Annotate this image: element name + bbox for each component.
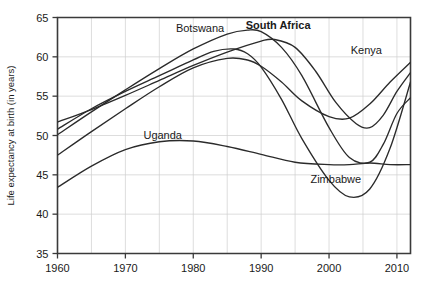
series-label-botswana: Botswana [176,22,225,34]
x-tick-label: 1970 [113,262,137,274]
x-tick-label: 1980 [181,262,205,274]
series-label-south-africa: South Africa [246,19,312,31]
chart-canvas: 35404550556065196019701980199020002010Li… [0,0,428,297]
series-label-kenya: Kenya [351,44,383,56]
x-tick-label: 1990 [249,262,273,274]
y-tick-label: 55 [36,90,48,102]
x-tick-label: 2010 [385,262,409,274]
y-tick-label: 35 [36,248,48,260]
y-tick-label: 65 [36,12,48,24]
y-axis-title: Life expectancy at birth (in years) [5,66,16,206]
y-tick-label: 45 [36,169,48,181]
series-line-kenya [58,58,411,155]
x-tick-label: 1960 [45,262,69,274]
y-tick-label: 50 [36,130,48,142]
series-label-zimbabwe: Zimbabwe [310,173,361,185]
life-expectancy-line-chart: 35404550556065196019701980199020002010Li… [0,0,428,297]
y-tick-label: 60 [36,51,48,63]
series-label-uganda: Uganda [143,129,182,141]
x-tick-label: 2000 [317,262,341,274]
y-tick-label: 40 [36,208,48,220]
